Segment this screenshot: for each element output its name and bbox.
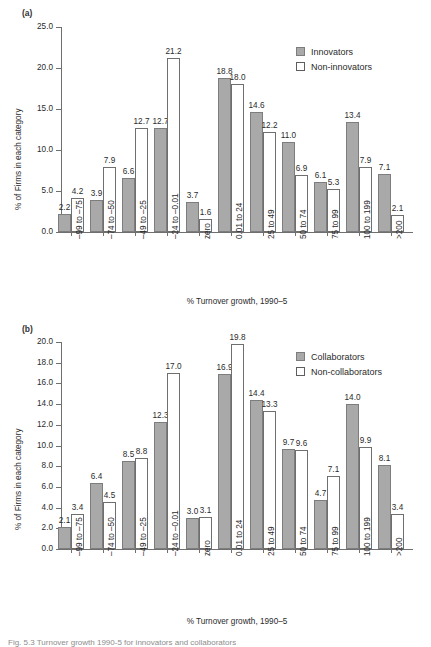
y-axis-line	[61, 27, 62, 232]
x-axis-tick	[327, 549, 328, 553]
y-axis-tick	[56, 487, 61, 488]
legend-swatch-collaborators	[296, 352, 305, 361]
bar-innovators	[346, 122, 359, 232]
y-axis-tick-label: 0.0	[15, 544, 53, 553]
y-axis-tick	[56, 191, 61, 192]
panel-b: (b) % of Firms in each category 0.02.04.…	[0, 318, 431, 647]
y-axis-tick	[56, 549, 61, 550]
legend-label-non-collaborators: Non-collaborators	[311, 366, 382, 378]
bar-innovators	[282, 142, 295, 232]
y-axis-tick-label: 14.0	[15, 399, 53, 408]
x-axis-category-label: –49 to –25	[139, 517, 148, 556]
x-axis-tick	[199, 549, 200, 553]
x-axis-tick	[135, 232, 136, 236]
panel-b-x-axis-title: % Turnover growth, 1990–5	[61, 617, 413, 626]
x-axis-tick	[199, 232, 200, 236]
x-axis-category-label: –99 to –75	[75, 200, 84, 239]
bar-value-label: 9.6	[288, 439, 316, 448]
y-axis-tick-label: 18.0	[15, 358, 53, 367]
y-axis-tick-label: 12.0	[15, 420, 53, 429]
bar-innovators	[154, 128, 167, 232]
bar-collaborators	[186, 518, 199, 549]
bar-value-label: 8.1	[371, 454, 399, 463]
bar-value-label: 3.4	[64, 503, 92, 512]
bar-value-label: 3.4	[384, 503, 412, 512]
bar-collaborators	[58, 527, 71, 549]
x-axis-category-label: –99 to –75	[75, 517, 84, 556]
bar-value-label: 3.1	[192, 506, 220, 515]
bar-value-label: 4.5	[96, 491, 124, 500]
x-axis-category-label: 0.01 to 24	[235, 520, 244, 556]
y-axis-tick-label: 20.0	[15, 337, 53, 346]
y-axis-tick-label: 25.0	[15, 22, 53, 31]
x-axis-category-label: –49 to –25	[139, 200, 148, 239]
bar-value-label: 6.4	[83, 472, 111, 481]
x-axis-category-label: 0.01 to 24	[235, 203, 244, 239]
x-axis-category-label: –74 to –50	[107, 200, 116, 239]
x-axis-tick	[391, 549, 392, 553]
bar-value-label: 14.0	[339, 393, 367, 402]
bar-collaborators	[250, 400, 263, 549]
x-axis-tick	[263, 232, 264, 236]
x-axis-tick	[135, 549, 136, 553]
panel-a-tag: (a)	[22, 8, 32, 18]
x-axis-tick	[167, 549, 168, 553]
bar-collaborators	[122, 461, 135, 549]
y-axis-tick	[56, 508, 61, 509]
x-axis-category-label: >200	[395, 538, 404, 556]
panel-b-tag: (b)	[22, 324, 33, 334]
y-axis-tick-label: 0.0	[15, 227, 53, 236]
bar-innovators	[314, 182, 327, 232]
bar-collaborators	[154, 422, 167, 549]
y-axis-tick	[56, 150, 61, 151]
bar-collaborators	[218, 374, 231, 549]
x-axis-tick	[167, 232, 168, 236]
legend-swatch-non-collaborators	[296, 367, 305, 376]
bar-collaborators	[346, 404, 359, 549]
bar-value-label: 1.6	[192, 208, 220, 217]
y-axis-tick	[56, 232, 61, 233]
y-axis-tick-label: 8.0	[15, 461, 53, 470]
x-axis-category-label: –24 to –0.01	[171, 193, 180, 239]
bar-value-label: 7.1	[371, 163, 399, 172]
x-axis-tick	[231, 232, 232, 236]
x-axis-tick	[327, 232, 328, 236]
x-axis-category-label: 50 to 74	[299, 526, 308, 556]
x-axis-category-label: –24 to –0.01	[171, 510, 180, 556]
y-axis-tick	[56, 404, 61, 405]
y-axis-tick-label: 2.0	[15, 523, 53, 532]
legend-swatch-non-innovators	[296, 62, 305, 71]
y-axis-tick-label: 4.0	[15, 503, 53, 512]
x-axis-tick	[71, 549, 72, 553]
bar-collaborators	[314, 500, 327, 549]
bar-value-label: 17.0	[160, 362, 188, 371]
bar-value-label: 7.1	[320, 465, 348, 474]
x-axis-tick	[71, 232, 72, 236]
bar-value-label: 14.6	[243, 101, 271, 110]
bar-innovators	[90, 200, 103, 232]
bar-value-label: 12.2	[256, 121, 284, 130]
panel-a-x-axis-title: % Turnover growth, 1990–5	[61, 297, 413, 306]
bar-value-label: 18.0	[224, 73, 252, 82]
y-axis-tick	[56, 363, 61, 364]
y-axis-tick-label: 6.0	[15, 482, 53, 491]
x-axis-tick	[103, 232, 104, 236]
bar-value-label: 9.9	[352, 436, 380, 445]
bar-value-label: 19.8	[224, 333, 252, 342]
x-axis-tick	[295, 549, 296, 553]
y-axis-tick	[56, 383, 61, 384]
bar-value-label: 13.4	[339, 111, 367, 120]
x-axis-category-label: –74 to –50	[107, 517, 116, 556]
y-axis-tick	[56, 466, 61, 467]
bar-value-label: 2.1	[384, 204, 412, 213]
x-axis-tick	[295, 232, 296, 236]
legend-label-innovators: Innovators	[311, 46, 353, 58]
x-axis-category-label: zero	[203, 540, 212, 556]
y-axis-tick-label: 20.0	[15, 63, 53, 72]
y-axis-tick-label: 5.0	[15, 186, 53, 195]
x-axis-category-label: 50 to 74	[299, 209, 308, 239]
x-axis-category-label: 100 to 199	[363, 200, 372, 239]
y-axis-tick	[56, 27, 61, 28]
bar-value-label: 21.2	[160, 47, 188, 56]
legend-label-collaborators: Collaborators	[311, 351, 365, 363]
